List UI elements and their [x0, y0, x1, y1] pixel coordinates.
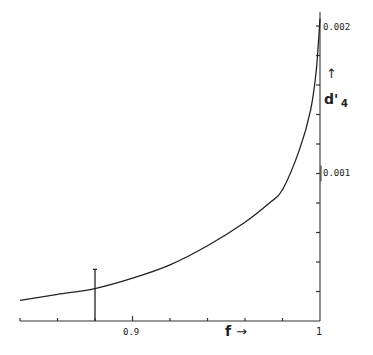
y-axis-title: d'	[324, 91, 338, 107]
x-tick-label-0.9: 0.9	[123, 327, 139, 337]
axes	[20, 12, 320, 321]
y-tick-label-0.001: 0.001	[323, 168, 350, 178]
error-bars	[93, 269, 97, 321]
ticks	[20, 26, 321, 321]
y-axis-title-subscript: 4	[341, 98, 348, 109]
chart: 0.9 1 0.001 0.002 f → ↑ d' 4	[0, 0, 373, 355]
x-tick-label-1: 1	[316, 326, 322, 337]
y-tick-label-0.002: 0.002	[323, 22, 350, 32]
x-axis-title: f	[225, 323, 232, 339]
data-curve	[20, 19, 320, 301]
x-axis-arrow-icon: →	[236, 324, 247, 339]
y-axis-arrow-icon: ↑	[326, 66, 337, 81]
